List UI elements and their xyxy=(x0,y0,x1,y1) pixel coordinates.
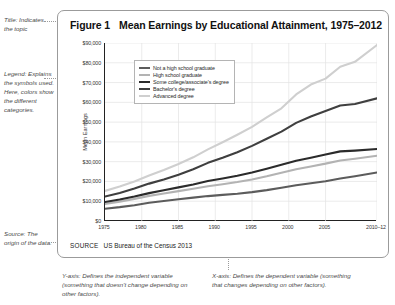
y-axis-tick-label: $30,000 xyxy=(83,159,101,165)
legend-swatch-icon xyxy=(139,67,150,69)
y-axis-tick-label: $60,000 xyxy=(83,99,101,105)
y-axis-tick-label: $10,000 xyxy=(83,198,101,204)
y-axis-tick-label: $80,000 xyxy=(83,60,101,66)
source-line: SOURCEUS Bureau of the Census 2013 xyxy=(70,242,192,249)
annotation-xaxis-note: X-axis: Defines the dependent variable (… xyxy=(212,272,352,290)
source-text: US Bureau of the Census 2013 xyxy=(104,242,192,249)
x-axis-tick-label: 1990 xyxy=(209,224,220,230)
annotation-yaxis-note: Y-axis: Defines the independent variable… xyxy=(62,272,190,299)
annotation-legend-note: Legend: Explains the symbols used. Here,… xyxy=(4,70,54,115)
x-axis-tick-label: 2010–12 xyxy=(366,224,386,230)
x-axis-tick-label: 1975 xyxy=(98,224,109,230)
legend-swatch-icon xyxy=(139,95,150,97)
x-axis-tick-label: 2000 xyxy=(282,224,293,230)
legend-item-label: Some college/associate's degree xyxy=(153,79,229,85)
y-axis-tick-label: $40,000 xyxy=(83,139,101,145)
legend-item[interactable]: High school graduate xyxy=(139,71,229,78)
chart-legend: Not a high school graduateHigh school gr… xyxy=(134,60,235,104)
legend-item-label: Advanced degree xyxy=(153,93,194,99)
x-axis-tick-label: 1995 xyxy=(245,224,256,230)
y-axis-tick-label: $20,000 xyxy=(83,178,101,184)
legend-swatch-icon xyxy=(139,81,150,83)
y-axis-tick-label: $70,000 xyxy=(83,80,101,86)
figure-container: Figure 1Mean Earnings by Educational Att… xyxy=(57,10,389,258)
annotation-title-note: Title: Indicates the topic xyxy=(4,16,52,34)
legend-swatch-icon xyxy=(139,74,150,76)
legend-item[interactable]: Not a high school graduate xyxy=(139,64,229,71)
y-axis-tick-label: $50,000 xyxy=(83,119,101,125)
legend-swatch-icon xyxy=(139,88,150,90)
legend-item[interactable]: Bachelor's degree xyxy=(139,86,229,93)
x-axis-tick-label: 1980 xyxy=(135,224,146,230)
chart-area: Mean Earnings $0$10,000$20,000$30,000$40… xyxy=(104,43,376,221)
legend-item-label: Bachelor's degree xyxy=(153,86,195,92)
figure-number: Figure 1 xyxy=(70,19,110,31)
figure-title: Figure 1Mean Earnings by Educational Att… xyxy=(70,19,382,31)
x-axis-tick-label: 2005 xyxy=(319,224,330,230)
legend-item-label: Not a high school graduate xyxy=(153,65,215,71)
legend-item[interactable]: Advanced degree xyxy=(139,93,229,100)
x-axis-tick-label: 1985 xyxy=(172,224,183,230)
figure-title-text: Mean Earnings by Educational Attainment,… xyxy=(119,19,382,31)
legend-item[interactable]: Some college/associate's degree xyxy=(139,78,229,85)
y-axis-tick-label: $90,000 xyxy=(83,40,101,46)
legend-item-label: High school graduate xyxy=(153,72,202,78)
annotation-source-note: Source: The origin of the data. xyxy=(4,230,52,248)
source-label: SOURCE xyxy=(70,242,99,249)
